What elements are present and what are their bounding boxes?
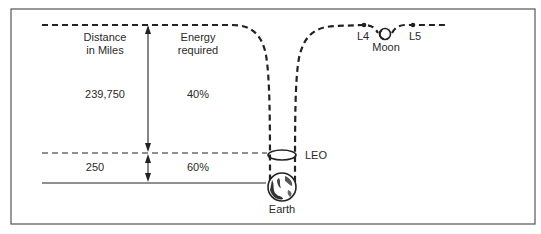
distance-value-leo: 250 [70,161,120,174]
earth-icon [268,173,296,201]
distance-value-moon: 239,750 [70,88,140,101]
distance-header-line2: in Miles [70,44,140,57]
moon-label: Moon [366,41,406,54]
l4-label: L4 [355,30,371,43]
energy-value-leo: 60% [168,161,228,174]
moon-icon [380,29,391,40]
energy-header: Energy required [168,31,228,57]
earth-label: Earth [262,203,302,216]
arrowhead-down-leo-icon [145,143,151,152]
arrowhead-up-top-icon [145,25,151,34]
energy-header-line1: Energy [168,31,228,44]
arrowhead-down-surface-icon [145,173,151,182]
leo-orbit-icon [268,150,296,160]
distance-header-line1: Distance [70,31,140,44]
gravity-well-diagram: Distance in Miles Energy required 239,75… [0,0,541,234]
l4-point-icon [362,23,367,28]
l5-point-icon [411,23,416,28]
energy-header-line2: required [168,44,228,57]
l5-label: L5 [407,30,423,43]
leo-label: LEO [305,149,327,162]
energy-value-moon: 40% [168,88,228,101]
arrowhead-up-leo-icon [145,154,151,163]
distance-header: Distance in Miles [70,31,140,57]
